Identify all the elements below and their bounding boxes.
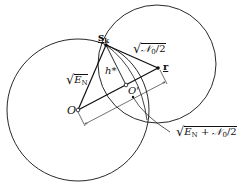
leader-line: [133, 97, 170, 132]
label-sqrt-N0-half: √𝒩0/2: [133, 42, 166, 56]
dimension-arrow: [85, 82, 165, 124]
dim-ext-left: [78, 112, 85, 126]
diagram-canvas: sk r O O' h* √EN √𝒩0/2 √EN + 𝒩0/2: [0, 0, 242, 192]
label-O: O: [67, 105, 76, 116]
point-O: [76, 108, 80, 112]
point-r: [156, 66, 160, 70]
label-O-prime: O': [128, 86, 139, 96]
label-h-star: h*: [105, 66, 116, 76]
diagram-svg: [0, 0, 242, 192]
label-sqrt-EN-plus-N0-half: √EN + 𝒩0/2: [176, 125, 237, 139]
dim-ext-right: [160, 70, 167, 84]
label-sqrt-EN: √EN: [66, 73, 88, 87]
label-sk: sk: [98, 32, 109, 44]
label-r: r: [163, 62, 168, 72]
